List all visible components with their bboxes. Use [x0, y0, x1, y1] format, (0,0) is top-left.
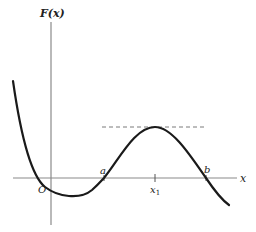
point-b-label: b — [204, 164, 210, 175]
potential-curve-diagram: F(x) x O a b x1 — [0, 0, 256, 232]
y-axis-label: F(x) — [39, 7, 65, 20]
origin-label: O — [38, 184, 46, 195]
point-a-label: a — [100, 165, 106, 176]
x-axis-label: x — [240, 172, 247, 185]
x1-subscript: 1 — [156, 189, 160, 197]
x1-label: x1 — [150, 184, 160, 197]
